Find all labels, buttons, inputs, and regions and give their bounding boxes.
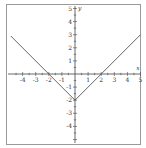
y-tick-label: 2	[68, 44, 72, 51]
y-tick-label: 5	[68, 5, 72, 12]
y-tick-label: 4	[68, 18, 72, 25]
y-tick-label: -1	[66, 83, 72, 90]
y-tick-label: -4	[66, 122, 72, 129]
x-tick-label: -4	[20, 76, 26, 83]
x-tick-label: -3	[33, 76, 39, 83]
x-tick-label: 4	[125, 76, 129, 83]
plot-area: -4-3-2-11234554321-1-2-3-4xy	[0, 0, 146, 148]
x-axis-label: x	[136, 64, 140, 71]
y-tick-label: -3	[66, 109, 72, 116]
y-tick-label: 3	[68, 31, 72, 38]
x-tick-label: -2	[46, 76, 52, 83]
x-tick-label: 5	[139, 76, 143, 83]
x-tick-label: 2	[99, 76, 103, 83]
y-tick-label: 1	[68, 57, 72, 64]
y-axis-label: y	[77, 4, 82, 12]
x-tick-label: 3	[112, 76, 116, 83]
y-tick-label: -2	[66, 96, 72, 103]
x-tick-label: 1	[86, 76, 90, 83]
x-tick-label: -1	[59, 76, 65, 83]
